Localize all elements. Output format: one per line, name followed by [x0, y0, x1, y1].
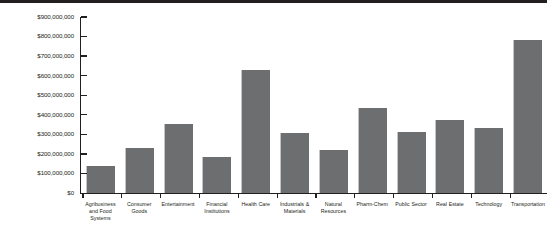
- bar[interactable]: [202, 157, 231, 193]
- y-axis-tick: [81, 75, 87, 76]
- bar[interactable]: [358, 108, 387, 193]
- x-axis-tick: [160, 193, 161, 198]
- top-rule-divider: [0, 0, 547, 3]
- x-category-label: Financial Institutions: [200, 201, 233, 241]
- x-axis-tick: [199, 193, 200, 198]
- y-tick-label: $500,000,000: [37, 92, 74, 98]
- x-axis-tick: [354, 193, 355, 198]
- bar[interactable]: [474, 128, 503, 194]
- y-axis-tick: [81, 173, 87, 174]
- bar-slot: [433, 17, 466, 193]
- bar-slot: [123, 17, 156, 193]
- bar-chart: $0$100,000,000$200,000,000$300,000,000$4…: [0, 0, 547, 241]
- x-category-label: Public Sector: [394, 201, 427, 241]
- y-axis-tick: [81, 134, 87, 135]
- bar[interactable]: [125, 148, 154, 193]
- bar[interactable]: [86, 166, 115, 193]
- x-axis-tick: [393, 193, 394, 198]
- bar-slot: [278, 17, 311, 193]
- bar[interactable]: [241, 70, 270, 193]
- bar-slot: [356, 17, 389, 193]
- y-tick-label: $700,000,000: [37, 53, 74, 59]
- bar-slot: [239, 17, 272, 193]
- x-axis-tick: [277, 193, 278, 198]
- x-axis-tick: [315, 193, 316, 198]
- y-tick-label: $800,000,000: [37, 33, 74, 39]
- y-axis-tick: [81, 114, 87, 115]
- y-tick-label: $600,000,000: [37, 73, 74, 79]
- bar-slot: [472, 17, 505, 193]
- y-tick-label: $400,000,000: [37, 112, 74, 118]
- bar-slot: [511, 17, 544, 193]
- x-category-label: Pharm-Chem: [356, 201, 389, 241]
- x-category-label: Industrials & Materials: [278, 201, 311, 241]
- bar-slot: [84, 17, 117, 193]
- x-axis-category-labels: Agribusiness and Food SystemsConsumer Go…: [81, 201, 547, 241]
- y-axis-tick: [81, 55, 87, 56]
- y-axis-tick: [81, 153, 87, 154]
- bar-series: [81, 17, 547, 193]
- x-category-label: Natural Resources: [317, 201, 350, 241]
- y-axis-tick: [81, 36, 87, 37]
- y-axis-tick-labels: $0$100,000,000$200,000,000$300,000,000$4…: [0, 0, 78, 241]
- y-tick-label: $0: [67, 190, 74, 196]
- bar-slot: [394, 17, 427, 193]
- x-category-label: Real Estate: [433, 201, 466, 241]
- bar[interactable]: [397, 132, 426, 193]
- bar[interactable]: [513, 40, 542, 193]
- bar[interactable]: [435, 120, 464, 193]
- plot-area: [81, 17, 547, 193]
- y-tick-label: $900,000,000: [37, 14, 74, 20]
- x-axis-tick: [238, 193, 239, 198]
- x-category-label: Technology: [472, 201, 505, 241]
- x-axis-tick: [510, 193, 511, 198]
- x-axis-tick: [471, 193, 472, 198]
- y-axis-tick: [81, 16, 87, 17]
- x-category-label: Agribusiness and Food Systems: [84, 201, 117, 241]
- x-category-label: Consumer Goods: [123, 201, 156, 241]
- y-tick-label: $200,000,000: [37, 151, 74, 157]
- bar-slot: [161, 17, 194, 193]
- bar-slot: [200, 17, 233, 193]
- x-category-label: Transportation: [511, 201, 544, 241]
- bar[interactable]: [164, 124, 193, 193]
- x-category-label: Entertainment: [161, 201, 194, 241]
- x-axis-tick: [82, 193, 83, 198]
- bar[interactable]: [280, 133, 309, 193]
- x-axis-tick: [432, 193, 433, 198]
- y-tick-label: $100,000,000: [37, 170, 74, 176]
- bar[interactable]: [319, 150, 348, 193]
- bar-slot: [317, 17, 350, 193]
- x-axis-tick: [121, 193, 122, 198]
- y-axis-tick: [81, 95, 87, 96]
- y-tick-label: $300,000,000: [37, 131, 74, 137]
- x-category-label: Health Care: [239, 201, 272, 241]
